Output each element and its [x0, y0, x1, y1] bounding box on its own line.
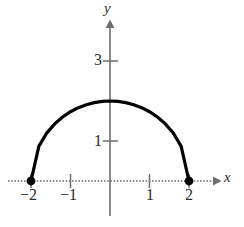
y-axis-label: y — [104, 1, 111, 16]
semicircle-graph-figure: y x −2 −1 1 2 1 3 — [0, 0, 244, 227]
left-endpoint-dot — [27, 177, 36, 186]
y-axis-arrowhead — [106, 20, 115, 29]
x-tick-label-1: 1 — [146, 187, 154, 203]
y-tick-label-1: 1 — [94, 133, 102, 149]
x-tick-label-2: 2 — [185, 187, 193, 203]
y-tick-label-3: 3 — [94, 52, 102, 68]
x-axis-label: x — [224, 170, 231, 185]
x-axis-arrowhead — [213, 176, 222, 185]
x-tick-label--1: −1 — [60, 187, 77, 203]
right-endpoint-dot — [185, 177, 194, 186]
x-tick-label--2: −2 — [20, 187, 37, 203]
